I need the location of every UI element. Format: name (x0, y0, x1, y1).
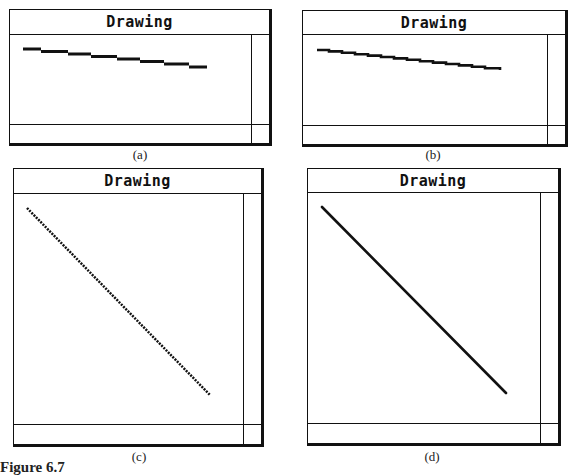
line-a (23, 49, 207, 67)
line-d (322, 207, 506, 393)
line-c (27, 208, 210, 395)
line-b (317, 50, 500, 70)
